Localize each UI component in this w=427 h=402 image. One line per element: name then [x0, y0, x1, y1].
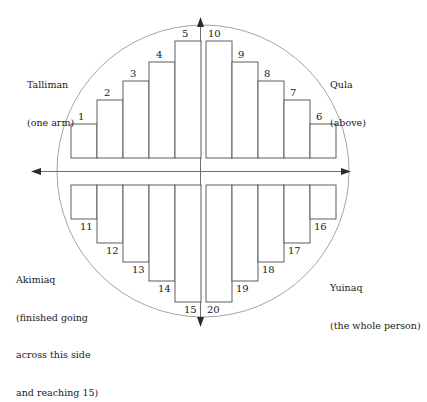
bar-label-16: 16: [314, 221, 327, 232]
bar-label-2: 2: [104, 87, 110, 98]
bar-17: [284, 185, 310, 243]
bar-label-8: 8: [264, 68, 270, 79]
bar-7: [284, 100, 310, 158]
bar-label-14: 14: [158, 283, 171, 294]
bar-label-13: 13: [132, 264, 145, 275]
quadrant-talliman-bars: 1 2 3 4 5: [71, 28, 201, 158]
bar-5: [175, 41, 201, 158]
bar-label-9: 9: [238, 49, 244, 60]
bar-1: [71, 124, 97, 158]
bar-20: [206, 185, 232, 302]
quadrant-label-akimiaq: Akimiaq (finished going across this side…: [16, 249, 98, 402]
quadrant-name-qula: Qula: [330, 79, 366, 92]
quadrant-label-yuinaq: Yuinaq (the whole person): [330, 257, 421, 345]
quadrant-qula-bars: 10 9 8 7 6: [206, 28, 336, 158]
bar-3: [123, 81, 149, 158]
quadrant-name-yuinaq: Yuinaq: [330, 282, 421, 295]
bar-9: [232, 62, 258, 158]
quadrant-yuinaq-bars: 20 19 18 17 16: [206, 185, 336, 315]
bar-label-6: 6: [316, 111, 322, 122]
bar-8: [258, 81, 284, 158]
axis-arrow-right-icon: [341, 168, 351, 175]
bar-label-17: 17: [288, 245, 301, 256]
bar-2: [97, 100, 123, 158]
bar-4: [149, 62, 175, 158]
bar-10: [206, 41, 232, 158]
bar-label-10: 10: [208, 28, 221, 39]
quadrant-label-qula: Qula (above): [330, 54, 366, 142]
bar-16: [310, 185, 336, 219]
bar-label-20: 20: [207, 304, 220, 315]
quadrant-gloss-akimiaq-line-1: (finished going: [16, 312, 98, 325]
quadrant-gloss-talliman: (one arm): [27, 117, 74, 130]
bar-label-18: 18: [262, 264, 275, 275]
bar-label-15: 15: [184, 304, 197, 315]
quadrant-gloss-qula: (above): [330, 117, 366, 130]
bar-11: [71, 185, 97, 219]
bar-label-7: 7: [290, 87, 296, 98]
bar-12: [97, 185, 123, 243]
quadrant-name-akimiaq: Akimiaq: [16, 274, 98, 287]
bar-label-12: 12: [106, 245, 119, 256]
bar-label-1: 1: [78, 111, 84, 122]
bar-19: [232, 185, 258, 281]
axis-arrow-up-icon: [197, 17, 204, 27]
axis-arrow-left-icon: [31, 168, 41, 175]
quadrant-label-talliman: Talliman (one arm): [27, 54, 74, 142]
bar-18: [258, 185, 284, 262]
bar-13: [123, 185, 149, 262]
quadrant-gloss-yuinaq: (the whole person): [330, 320, 421, 333]
bar-label-19: 19: [236, 283, 249, 294]
bar-14: [149, 185, 175, 281]
bar-label-5: 5: [182, 28, 188, 39]
quadrant-name-talliman: Talliman: [27, 79, 74, 92]
bar-label-4: 4: [156, 49, 162, 60]
bar-label-3: 3: [130, 68, 136, 79]
quadrant-gloss-akimiaq-line-3: and reaching 15): [16, 387, 98, 400]
bar-15: [175, 185, 201, 302]
quadrant-gloss-akimiaq-line-2: across this side: [16, 349, 98, 362]
bar-label-11: 11: [80, 221, 93, 232]
axis-arrow-down-icon: [197, 317, 204, 327]
